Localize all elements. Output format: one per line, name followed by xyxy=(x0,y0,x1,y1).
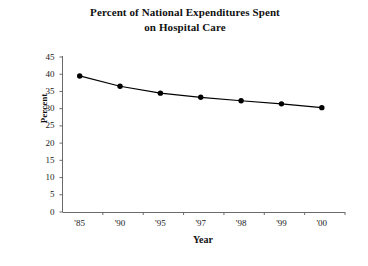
y-axis-tick-label: 20 xyxy=(29,139,55,148)
x-axis-tick-label: '00 xyxy=(302,219,342,228)
x-axis-tick-label: '98 xyxy=(221,219,261,228)
data-point-marker xyxy=(158,90,163,95)
data-point-marker xyxy=(319,105,324,110)
x-axis-tick-label: '85 xyxy=(60,219,100,228)
y-axis-tick-label: 40 xyxy=(29,70,55,79)
y-axis-tick-label: 15 xyxy=(29,156,55,165)
data-point-marker xyxy=(238,98,243,103)
x-axis-title: Year xyxy=(163,235,243,245)
data-series-line xyxy=(80,76,322,108)
data-point-marker xyxy=(279,101,284,106)
y-axis-title: Percent xyxy=(40,79,49,139)
data-point-marker xyxy=(77,73,82,78)
y-axis-tick-label: 5 xyxy=(29,190,55,199)
data-point-marker xyxy=(198,95,203,100)
y-axis-tick-label: 0 xyxy=(29,208,55,217)
y-axis-tick-label: 45 xyxy=(29,53,55,62)
chart-figure: Percent of National Expenditures Spent o… xyxy=(0,0,368,266)
plot-area: 051015202530354045 '85'90'95'97'98'99'00… xyxy=(0,0,368,266)
x-axis-tick-label: '97 xyxy=(181,219,221,228)
x-axis-tick-label: '90 xyxy=(100,219,140,228)
axis-lines xyxy=(63,56,346,213)
y-axis-tick-label: 10 xyxy=(29,173,55,182)
x-axis-tick-label: '95 xyxy=(140,219,180,228)
x-axis-tick-label: '99 xyxy=(261,219,301,228)
data-point-marker xyxy=(117,84,122,89)
